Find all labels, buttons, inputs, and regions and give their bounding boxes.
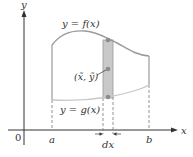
region bbox=[52, 45, 149, 100]
centroid-label: (x̃, ỹ) bbox=[74, 71, 98, 82]
y-axis-arrow-icon bbox=[22, 10, 27, 17]
x-axis-label: x bbox=[181, 125, 187, 136]
dx-label: dx bbox=[102, 139, 114, 150]
y-axis-label: y bbox=[20, 0, 27, 10]
dx-left-arrow-icon bbox=[100, 132, 104, 135]
centroid-point bbox=[106, 67, 111, 72]
x-axis-arrow-icon bbox=[171, 128, 178, 133]
dx-right-arrow-icon bbox=[113, 132, 117, 135]
bottom-point bbox=[106, 95, 111, 100]
centroid-region-diagram: x y 0 y = f(x) y = g(x) (x̃, ỹ) a b dx bbox=[0, 0, 193, 157]
b-tick-label: b bbox=[146, 134, 152, 145]
a-tick-label: a bbox=[49, 134, 55, 145]
dx-arrows bbox=[95, 132, 121, 135]
lower-curve-label: y = g(x) bbox=[59, 104, 100, 115]
origin-label: 0 bbox=[15, 132, 21, 143]
upper-curve-label: y = f(x) bbox=[61, 18, 100, 29]
top-point bbox=[106, 38, 111, 43]
upper-curve-f bbox=[52, 31, 149, 56]
lower-curve-g bbox=[52, 85, 149, 100]
